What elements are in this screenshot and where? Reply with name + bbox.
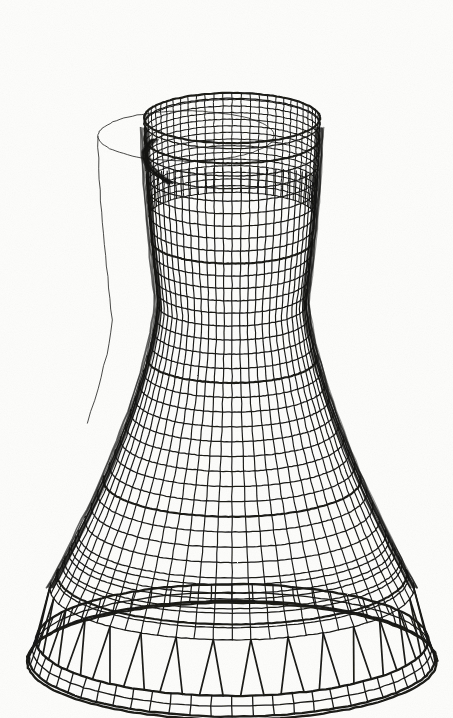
ring-beam-radial-divider [252,585,253,602]
ring-beam-radial-divider [253,696,254,716]
figure-root [0,0,453,718]
cooling-tower-mesh-drawing [0,0,453,718]
